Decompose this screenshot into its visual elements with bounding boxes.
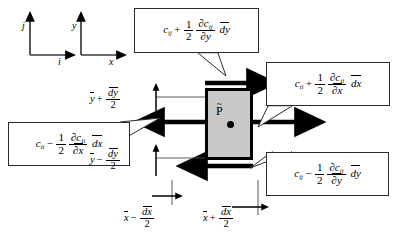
x-right-fraction: dx2 — [219, 207, 233, 230]
top-partial-denominator: ∂y — [196, 31, 215, 42]
axis-label-y: y — [72, 20, 76, 31]
label-y-upper-extent: y+dy2 — [90, 88, 122, 111]
dimension-x-right — [232, 180, 262, 215]
x-left-base: x — [124, 212, 129, 223]
right-partial-derivative: ∂cii∂x — [328, 72, 347, 96]
axes-xy — [81, 21, 117, 55]
cell-point-tilde: ~ — [216, 99, 223, 109]
y-upper-base: y — [90, 93, 95, 104]
top-half-coefficient: 12 — [184, 19, 194, 43]
callout-top-face: cij+12∂cij∂ydy — [134, 8, 259, 53]
left-base: cii — [36, 137, 45, 149]
left-half-coefficient: 12 — [56, 132, 66, 156]
dimension-x-left — [152, 180, 176, 205]
cell-point-symbol: ~ P — [216, 104, 223, 119]
bottom-partial-derivative: ∂cij∂y — [327, 162, 346, 186]
right-face-expression: cii+12∂cii∂xdx — [295, 72, 362, 96]
top-partial-derivative: ∂cij∂y — [196, 18, 215, 42]
cell-point-label: ~ P — [216, 104, 223, 119]
top-base: cij — [163, 23, 172, 35]
dimension-y-lower — [156, 151, 205, 176]
y-lower-fraction: dy2 — [106, 149, 120, 172]
label-x-right-extent: x+dx2 — [203, 207, 235, 230]
right-partial-denominator: ∂x — [328, 85, 347, 96]
left-partial-derivative: ∂cii∂x — [69, 132, 88, 156]
axes-ij — [30, 21, 66, 55]
label-x-left-extent: x−dx2 — [124, 207, 156, 230]
left-partial-denominator: ∂x — [69, 145, 88, 156]
axis-label-j: j — [22, 20, 25, 31]
right-differential: dx — [351, 77, 361, 89]
top-face-expression: cij+12∂cij∂ydy — [163, 18, 230, 42]
bottom-partial-denominator: ∂y — [327, 175, 346, 186]
dimension-y-upper — [156, 90, 205, 112]
diagram-canvas: j i y x ~ P cij+12∂cij∂ydy cii+12∂cii∂xd… — [0, 0, 394, 244]
y-lower-base: y — [90, 154, 95, 165]
callout-leader-top — [198, 53, 226, 76]
callout-right-face: cii+12∂cii∂xdx — [266, 62, 390, 106]
callout-bottom-face: cij−12∂cij∂ydy — [266, 152, 389, 196]
top-differential: dy — [219, 23, 229, 35]
left-differential: dx — [92, 137, 102, 149]
cell-center-dot — [227, 121, 234, 128]
bottom-differential: dy — [350, 167, 360, 179]
axis-label-i: i — [58, 56, 61, 67]
x-right-base: x — [203, 212, 208, 223]
label-y-lower-extent: y−dy2 — [90, 149, 122, 172]
bottom-half-coefficient: 12 — [315, 162, 325, 186]
right-half-coefficient: 12 — [315, 72, 325, 96]
right-base: cii — [295, 77, 304, 89]
bottom-face-expression: cij−12∂cij∂ydy — [294, 162, 361, 186]
bottom-base: cij — [294, 167, 303, 179]
x-left-fraction: dx2 — [140, 207, 154, 230]
y-upper-fraction: dy2 — [106, 88, 120, 111]
axis-label-x: x — [109, 56, 113, 67]
